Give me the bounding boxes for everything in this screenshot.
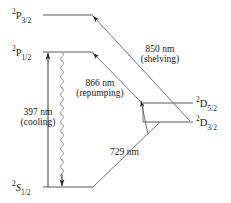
level-label-d32: 2D3/2: [196, 115, 217, 130]
level-label-s12: 2S1/2: [12, 180, 31, 195]
transition-label-729: 729 nm: [110, 148, 160, 158]
level-label-s12-j: 1/2: [21, 188, 31, 197]
transition-role-repumping: (repumping): [62, 89, 138, 99]
level-label-p32-term: P: [16, 10, 22, 21]
transition-wavelength-729: 729 nm: [110, 147, 139, 157]
level-label-p32-j: 3/2: [22, 16, 32, 25]
transition-wavelength-shelving: 850 nm: [146, 44, 175, 54]
transition-wavelength-cooling: 397 nm: [24, 107, 53, 117]
level-label-d32-j: 3/2: [207, 123, 217, 132]
level-label-d52-j: 5/2: [207, 104, 217, 113]
level-label-p12-term: P: [16, 47, 22, 58]
level-label-p12-j: 1/2: [22, 53, 32, 62]
transition-label-shelving: 850 nm (shelving): [128, 45, 192, 65]
transition-role-shelving: (shelving): [128, 55, 192, 65]
level-label-p12: 2P1/2: [12, 45, 31, 60]
transition-line-729-upper: [141, 101, 148, 134]
transition-wavelength-repumping: 866 nm: [86, 78, 115, 88]
energy-level-diagram: 2P3/2 2P1/2 2D5/2 2D3/2 2S1/2 397 nm (co…: [0, 0, 231, 203]
level-label-d52: 2D5/2: [196, 96, 217, 111]
transition-label-cooling: 397 nm (cooling): [10, 108, 66, 128]
transition-role-cooling: (cooling): [10, 118, 66, 128]
transition-label-repumping: 866 nm (repumping): [62, 79, 138, 99]
level-label-p32: 2P3/2: [12, 8, 31, 23]
